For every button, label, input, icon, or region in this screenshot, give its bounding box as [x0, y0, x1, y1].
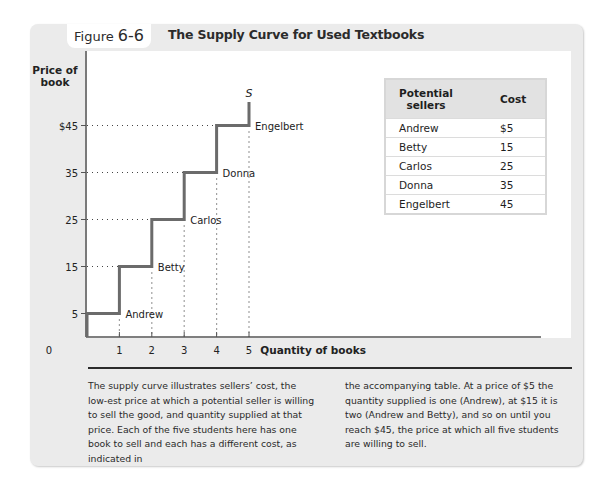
curve-label-s: S [246, 87, 253, 100]
x-tick-label: 1 [116, 345, 122, 356]
y-tick-label: 35 [65, 168, 78, 179]
seller-name: Andrew [385, 119, 466, 138]
seller-cost: 15 [466, 138, 546, 157]
table-header-row: Potential sellers Cost [385, 79, 546, 119]
x-tick-label: 4 [213, 345, 219, 356]
seller-cost: 45 [466, 195, 546, 215]
x-tick-label: 2 [149, 345, 155, 356]
caption-right: the accompanying table. At a price of $5… [345, 379, 575, 452]
x-tick-label: 5 [246, 345, 252, 356]
caption-divider [88, 367, 572, 369]
seller-cost: 25 [466, 157, 546, 176]
y-tick-label: $45 [59, 121, 78, 132]
seller-cost: 35 [466, 176, 546, 195]
table-row: Engelbert 45 [385, 195, 546, 215]
x-axis-title: Quantity of books [260, 344, 366, 356]
x-tick-label: 0 [46, 345, 52, 356]
seller-point-label: Engelbert [255, 121, 304, 132]
table-row: Betty 15 [385, 138, 546, 157]
supply-step-line [87, 102, 249, 337]
header-cost: Cost [466, 79, 546, 119]
chart-labels: SAndrewBettyCarlosDonnaEngelbert [125, 87, 303, 320]
y-tick-label: 15 [65, 262, 78, 273]
seller-name: Donna [385, 176, 466, 195]
seller-point-label: Andrew [125, 309, 163, 320]
y-tick-label: 5 [72, 309, 78, 320]
caption-left: The supply curve illustrates sellers’ co… [88, 379, 318, 467]
seller-name: Engelbert [385, 195, 466, 215]
table-row: Carlos 25 [385, 157, 546, 176]
guide-lines [87, 126, 249, 338]
x-tick-label: 3 [181, 345, 187, 356]
seller-point-label: Carlos [190, 215, 221, 226]
sellers-table: Potential sellers Cost Andrew $5 Betty 1… [384, 78, 547, 215]
figure-panel: Figure 6-6 The Supply Curve for Used Tex… [30, 24, 583, 466]
table-row: Andrew $5 [385, 119, 546, 138]
seller-name: Betty [385, 138, 466, 157]
seller-cost: $5 [466, 119, 546, 138]
seller-name: Carlos [385, 157, 466, 176]
y-tick-label: 25 [65, 215, 78, 226]
supply-curve [87, 102, 249, 337]
header-potential-sellers: Potential sellers [385, 79, 466, 119]
seller-point-label: Betty [158, 262, 185, 273]
table-row: Donna 35 [385, 176, 546, 195]
seller-point-label: Donna [223, 168, 256, 179]
